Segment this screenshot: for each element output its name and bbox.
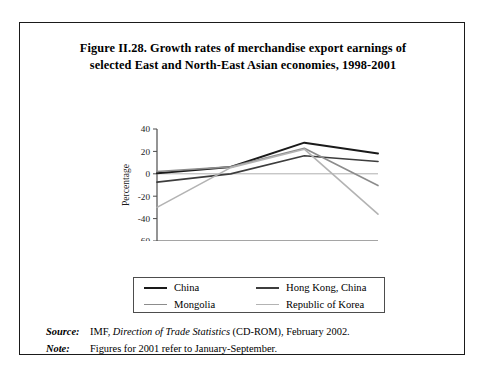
y-axis-title: Percentage [120, 164, 131, 206]
note-label: Note: [46, 340, 90, 357]
source-row: Source: IMF, Direction of Trade Statisti… [46, 323, 446, 340]
source-label: Source: [46, 323, 90, 340]
figure-title: Figure II.28. Growth rates of merchandis… [44, 40, 442, 74]
source-text-pre: IMF, [90, 326, 113, 337]
chart-legend: China Hong Kong, China Mongolia Republic… [133, 277, 385, 313]
y-axis-tick-label: -20 [138, 192, 151, 202]
legend-label-china: China [174, 282, 199, 294]
figure-title-line-2: selected East and North-East Asian econo… [44, 57, 442, 74]
y-axis-tick-label: 40 [141, 124, 151, 134]
figure-notes: Source: IMF, Direction of Trade Statisti… [46, 323, 446, 357]
note-row: Note: Figures for 2001 refer to January-… [46, 340, 446, 357]
legend-swatch-hong-kong-china [256, 287, 279, 289]
y-axis-tick-label: -60 [138, 236, 151, 241]
figure-title-line-1: Figure II.28. Growth rates of merchandis… [44, 40, 442, 57]
source-text-post: (CD-ROM), February 2002. [230, 326, 350, 337]
legend-label-mongolia: Mongolia [174, 299, 215, 311]
y-axis-tick-label: 0 [145, 169, 150, 179]
line-chart: 40200-20-40-601998199920002001Percentage [20, 81, 466, 241]
legend-item-mongolia: Mongolia [144, 299, 256, 311]
legend-label-hong-kong-china: Hong Kong, China [286, 282, 366, 294]
source-text-italic: Direction of Trade Statistics [113, 326, 230, 337]
figure-container: Figure II.28. Growth rates of merchandis… [19, 22, 465, 355]
legend-swatch-mongolia [144, 304, 167, 305]
legend-swatch-china [144, 287, 167, 289]
legend-item-china: China [144, 282, 256, 294]
y-axis-tick-label: -40 [138, 214, 151, 224]
y-axis-tick-label: 20 [141, 147, 151, 157]
chart-plot-area: 40200-20-40-601998199920002001Percentage [20, 81, 466, 241]
source-text: IMF, Direction of Trade Statistics (CD-R… [90, 323, 350, 340]
note-text: Figures for 2001 refer to January-Septem… [90, 340, 277, 357]
legend-label-republic-of-korea: Republic of Korea [286, 299, 364, 311]
legend-swatch-republic-of-korea [256, 304, 279, 305]
legend-item-hong-kong-china: Hong Kong, China [256, 282, 396, 294]
legend-item-republic-of-korea: Republic of Korea [256, 299, 396, 311]
